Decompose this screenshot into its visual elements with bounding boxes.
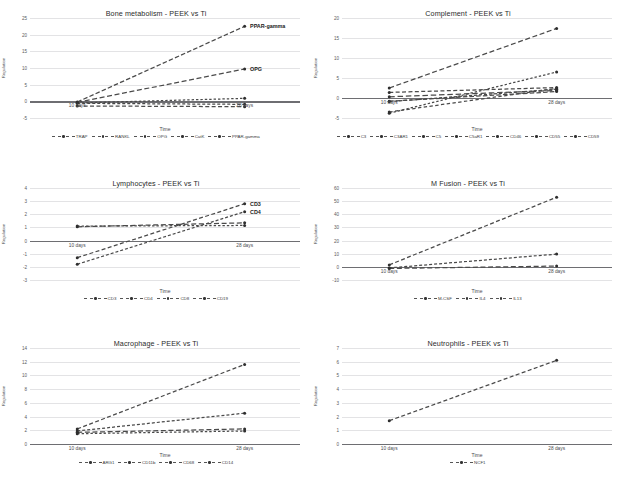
legend-item[interactable]: C5 bbox=[412, 134, 441, 139]
plot-area: -505101520Regulation10 days28 days bbox=[342, 18, 612, 118]
chart-title: Bone metabolism - PEEK vs Ti bbox=[0, 0, 312, 18]
legend-item[interactable]: ARG1 bbox=[79, 460, 115, 465]
legend-marker-icon bbox=[128, 461, 131, 464]
y-axis-tick-label: 40 bbox=[334, 212, 339, 217]
chart-title: M Fusion - PEEK vs Ti bbox=[312, 170, 624, 188]
legend-line-icon bbox=[428, 298, 437, 299]
legend-item[interactable]: CD55 bbox=[525, 134, 560, 139]
y-axis-tick-label: -2 bbox=[23, 264, 27, 269]
data-point bbox=[243, 97, 246, 100]
y-axis-tick-label: 0 bbox=[336, 442, 339, 447]
legend-line-icon bbox=[351, 136, 360, 137]
legend-label: CD55 bbox=[549, 134, 560, 139]
legend-line-icon bbox=[539, 136, 548, 137]
plot-area: -100102030405060Regulation10 days28 days bbox=[342, 188, 612, 280]
legend-label: ARG1 bbox=[103, 460, 115, 465]
legend-label: CD3 bbox=[108, 296, 117, 301]
legend-item[interactable]: CD59 bbox=[564, 134, 599, 139]
plot-area-wrapper: -100102030405060Regulation10 days28 days… bbox=[342, 188, 612, 294]
chart-panel-m-fusion: M Fusion - PEEK vs Ti-100102030405060Reg… bbox=[312, 170, 624, 330]
y-axis-title: Regulation bbox=[313, 386, 318, 407]
legend-item[interactable]: C3AR1 bbox=[370, 134, 408, 139]
data-point bbox=[555, 196, 558, 199]
legend-line-icon bbox=[159, 462, 168, 463]
data-point bbox=[555, 27, 558, 30]
legend-item[interactable]: C5aR1 bbox=[445, 134, 482, 139]
y-axis-tick-label: 10 bbox=[334, 251, 339, 256]
legend-item[interactable]: IL4 bbox=[456, 296, 486, 301]
x-axis-category-label: 28 days bbox=[236, 446, 253, 451]
y-axis-tick-label: -1 bbox=[23, 251, 27, 256]
y-axis-tick-label: -10 bbox=[332, 278, 339, 283]
legend-item[interactable]: CD8 bbox=[157, 296, 189, 301]
legend-marker-icon bbox=[89, 461, 92, 464]
series-annotation-label: CD3 bbox=[250, 201, 261, 207]
data-point bbox=[76, 225, 79, 228]
y-axis-tick-label: 4 bbox=[336, 387, 339, 392]
legend-line-icon bbox=[52, 136, 61, 137]
y-axis-tick-label: 1 bbox=[24, 225, 27, 230]
legend-item[interactable]: TRAP bbox=[52, 134, 87, 139]
legend-item[interactable]: M-CSF bbox=[414, 296, 452, 301]
legend-item[interactable]: CD19 bbox=[193, 296, 228, 301]
gridline bbox=[342, 280, 612, 281]
legend-label: C5aR1 bbox=[469, 134, 483, 139]
series-line bbox=[389, 197, 556, 265]
legend-item[interactable]: CD3 bbox=[84, 296, 116, 301]
legend-line-icon bbox=[132, 462, 141, 463]
legend-marker-icon bbox=[169, 461, 172, 464]
legend-marker-icon bbox=[203, 297, 206, 300]
y-axis-tick-label: 0 bbox=[24, 99, 27, 104]
x-axis-category-label: 28 days bbox=[236, 243, 253, 248]
y-axis-tick-label: 30 bbox=[334, 225, 339, 230]
series-line bbox=[77, 103, 244, 104]
y-axis-title: Regulation bbox=[1, 224, 6, 245]
data-point bbox=[243, 412, 246, 415]
legend-label: CatK bbox=[195, 134, 205, 139]
legend-marker-icon bbox=[218, 135, 221, 138]
legend-line-icon bbox=[212, 462, 221, 463]
gridline bbox=[342, 118, 612, 119]
legend-marker-icon bbox=[130, 297, 133, 300]
legend-line-icon bbox=[445, 136, 454, 137]
data-point bbox=[76, 256, 79, 259]
legend-line-icon bbox=[490, 298, 499, 299]
legend-item[interactable]: CD4 bbox=[120, 296, 152, 301]
legend-item[interactable]: RANKL bbox=[92, 134, 130, 139]
legend-item[interactable]: IL13 bbox=[490, 296, 522, 301]
y-axis-tick-label: -5 bbox=[23, 116, 27, 121]
legend-item[interactable]: CD46 bbox=[486, 134, 521, 139]
legend-marker-icon bbox=[455, 135, 458, 138]
y-axis-tick-label: 2 bbox=[336, 414, 339, 419]
x-axis-category-label: 10 days bbox=[381, 100, 398, 105]
series-layer bbox=[342, 348, 612, 444]
legend-item[interactable]: CatK bbox=[171, 134, 204, 139]
legend-line-icon bbox=[503, 298, 512, 299]
legend-line-icon bbox=[79, 462, 88, 463]
legend-label: CD46 bbox=[510, 134, 521, 139]
data-point bbox=[555, 359, 558, 362]
plot-area-wrapper: -50510152025Regulation10 days28 daysPPAR… bbox=[30, 18, 300, 132]
y-axis-tick-label: 20 bbox=[334, 16, 339, 21]
legend-item[interactable]: C3 bbox=[337, 134, 366, 139]
legend-marker-icon bbox=[167, 297, 170, 300]
legend-item[interactable]: OPG bbox=[134, 134, 167, 139]
data-point bbox=[243, 202, 246, 205]
legend-marker-icon bbox=[422, 135, 425, 138]
legend-item[interactable]: CD14 bbox=[198, 460, 233, 465]
legend-item[interactable]: NCF1 bbox=[450, 460, 485, 465]
plot-area: 02468101214Regulation10 days28 days bbox=[30, 348, 300, 444]
y-axis-tick-label: 0 bbox=[24, 442, 27, 447]
legend-item[interactable]: PPAR-gamma bbox=[208, 134, 259, 139]
chart-panel-bone-metabolism: Bone metabolism - PEEK vs Ti-50510152025… bbox=[0, 0, 312, 170]
y-axis-tick-label: 15 bbox=[22, 49, 27, 54]
data-point bbox=[243, 25, 246, 28]
legend-line-icon bbox=[459, 136, 468, 137]
legend-line-icon bbox=[208, 136, 217, 137]
y-axis-tick-label: 10 bbox=[22, 66, 27, 71]
legend-line-icon bbox=[207, 298, 216, 299]
y-axis-tick-label: 12 bbox=[22, 359, 27, 364]
legend-line-icon bbox=[222, 136, 231, 137]
legend-item[interactable]: CD11b bbox=[118, 460, 155, 465]
legend-item[interactable]: CD68 bbox=[159, 460, 194, 465]
